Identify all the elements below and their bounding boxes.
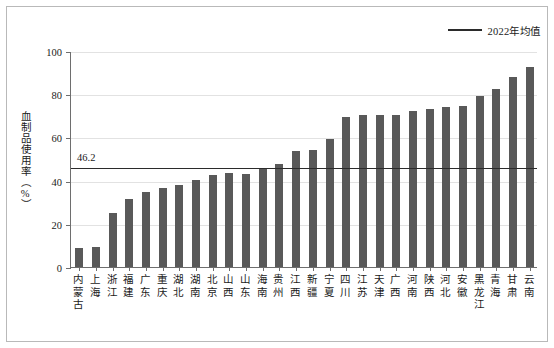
y-tick-label: 100 xyxy=(46,47,62,58)
plot-area: 020406080100 46.2 xyxy=(70,52,537,268)
x-tick xyxy=(496,267,497,271)
x-tick-label: 海南 xyxy=(256,274,268,299)
x-tick-label: 天津 xyxy=(373,274,385,299)
x-tick xyxy=(296,267,297,271)
x-tick-label: 上海 xyxy=(89,274,101,299)
bar xyxy=(242,174,250,267)
legend-label-mean: 2022年均值 xyxy=(488,23,540,38)
bar xyxy=(159,188,167,267)
x-tick-label: 江苏 xyxy=(356,274,368,299)
x-tick xyxy=(513,267,514,271)
mean-reference-line xyxy=(71,168,537,169)
bar xyxy=(225,173,233,267)
x-tick xyxy=(163,267,164,271)
y-tick-label: 80 xyxy=(52,90,63,101)
bar xyxy=(125,199,133,267)
x-tick-label: 黑龙江 xyxy=(473,274,485,312)
x-tick-label: 山东 xyxy=(239,274,251,299)
bar xyxy=(75,248,83,267)
bar xyxy=(109,213,117,267)
x-tick xyxy=(146,267,147,271)
bar xyxy=(442,107,450,267)
bar xyxy=(409,111,417,267)
x-tick xyxy=(530,267,531,271)
x-tick xyxy=(313,267,314,271)
bar xyxy=(376,115,384,267)
x-tick xyxy=(113,267,114,271)
bar-series xyxy=(71,52,537,267)
y-tick-label: 0 xyxy=(57,263,62,274)
x-tick-label: 陕西 xyxy=(423,274,435,299)
bar xyxy=(476,96,484,268)
x-tick-label: 浙江 xyxy=(106,274,118,299)
x-tick-label: 福建 xyxy=(122,274,134,299)
y-tick-label: 40 xyxy=(52,176,63,187)
bar xyxy=(175,185,183,268)
x-tick xyxy=(246,267,247,271)
bar xyxy=(342,117,350,267)
bar xyxy=(142,192,150,267)
x-tick-label: 云南 xyxy=(523,274,535,299)
x-tick xyxy=(79,267,80,271)
x-tick-label: 湖北 xyxy=(172,274,184,299)
x-tick xyxy=(196,267,197,271)
legend: 2022年均值 xyxy=(448,22,540,38)
bar xyxy=(326,139,334,267)
x-tick xyxy=(380,267,381,271)
bar xyxy=(392,115,400,267)
bar xyxy=(509,77,517,267)
bar xyxy=(192,180,200,267)
mean-value-label: 46.2 xyxy=(77,152,95,163)
bar xyxy=(359,115,367,267)
bar xyxy=(92,247,100,267)
chart-page: 2022年均值 血制品使用率（%） 020406080100 46.2 内蒙古上… xyxy=(0,0,554,348)
x-tick xyxy=(279,267,280,271)
x-tick-label: 广东 xyxy=(139,274,151,299)
x-tick-label: 四川 xyxy=(339,274,351,299)
x-tick-label: 北京 xyxy=(206,274,218,299)
x-tick xyxy=(263,267,264,271)
x-tick xyxy=(446,267,447,271)
x-tick xyxy=(179,267,180,271)
x-tick-label: 重庆 xyxy=(156,274,168,299)
bar xyxy=(426,109,434,267)
x-tick-label: 湖南 xyxy=(189,274,201,299)
y-tick-label: 60 xyxy=(52,133,63,144)
x-tick xyxy=(229,267,230,271)
x-tick-label: 江西 xyxy=(289,274,301,299)
x-tick xyxy=(96,267,97,271)
x-tick-label: 广西 xyxy=(389,274,401,299)
x-tick xyxy=(129,267,130,271)
bar xyxy=(459,106,467,267)
bar xyxy=(259,169,267,267)
x-tick-label: 贵州 xyxy=(272,274,284,299)
y-tick xyxy=(66,268,71,269)
x-tick xyxy=(430,267,431,271)
bar xyxy=(492,89,500,267)
x-tick xyxy=(480,267,481,271)
x-tick-label: 河南 xyxy=(406,274,418,299)
y-tick-label: 20 xyxy=(52,219,63,230)
x-tick xyxy=(363,267,364,271)
x-tick xyxy=(346,267,347,271)
x-tick-label: 安徽 xyxy=(456,274,468,299)
x-tick xyxy=(413,267,414,271)
x-tick-label: 河北 xyxy=(439,274,451,299)
x-tick xyxy=(330,267,331,271)
bar xyxy=(275,164,283,267)
legend-line-marker-icon xyxy=(448,29,482,31)
x-tick xyxy=(463,267,464,271)
y-axis-title: 血制品使用率（%） xyxy=(17,52,33,268)
x-tick-label: 新疆 xyxy=(306,274,318,299)
x-tick-label: 山西 xyxy=(222,274,234,299)
x-axis-labels: 内蒙古上海浙江福建广东重庆湖北湖南北京山西山东海南贵州江西新疆宁夏四川江苏天津广… xyxy=(70,274,537,336)
x-tick-label: 宁夏 xyxy=(323,274,335,299)
x-tick-label: 甘肃 xyxy=(506,274,518,299)
bar xyxy=(526,67,534,267)
x-tick xyxy=(396,267,397,271)
x-tick xyxy=(213,267,214,271)
x-tick-label: 青海 xyxy=(489,274,501,299)
x-tick-label: 内蒙古 xyxy=(72,274,84,312)
bar xyxy=(209,175,217,267)
